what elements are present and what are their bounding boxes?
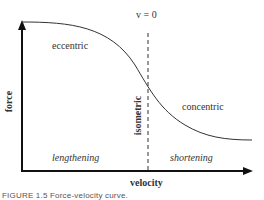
figure-caption: FIGURE 1.5 Force-velocity curve. (2, 191, 128, 200)
shortening-label: shortening (170, 152, 213, 163)
eccentric-label: eccentric (52, 40, 88, 51)
isometric-label: isometric (132, 96, 143, 135)
v-zero-label: v = 0 (136, 9, 157, 20)
lengthening-label: lengthening (52, 152, 99, 163)
y-axis-label: force (3, 91, 14, 112)
x-axis-label: velocity (130, 177, 163, 188)
concentric-label: concentric (182, 101, 224, 112)
x-axis-arrow-icon (243, 167, 253, 175)
